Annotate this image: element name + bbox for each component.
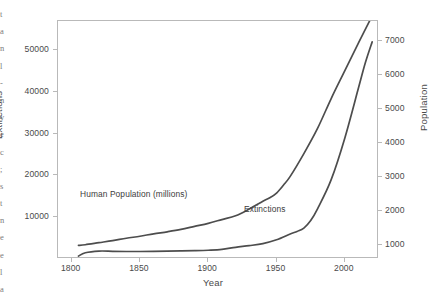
y-axis-left-tick-label: 10000 — [0, 211, 49, 221]
y-axis-left-tick-mark — [53, 174, 57, 175]
x-axis-tick-label: 1800 — [61, 263, 81, 273]
y-axis-right-tick-mark — [378, 210, 382, 211]
y-axis-right-tick-mark — [378, 40, 382, 41]
y-axis-left-tick-mark — [53, 91, 57, 92]
y-axis-right-tick-mark — [378, 108, 382, 109]
x-axis-tick-label: 1850 — [129, 263, 149, 273]
y-axis-right-tick-label: 4000 — [385, 137, 405, 147]
series-annotation-extinctions: Extinctions — [244, 204, 286, 214]
y-axis-right-tick-label: 7000 — [385, 35, 405, 45]
x-axis-tick-mark — [139, 258, 140, 262]
plot-area — [57, 20, 378, 258]
x-axis-tick-mark — [276, 258, 277, 262]
x-axis-tick-label: 1900 — [197, 263, 217, 273]
y-axis-left-tick-label: 30000 — [0, 128, 49, 138]
series-annotation-human-population: Human Population (millions) — [80, 189, 187, 199]
y-axis-right-tick-label: 5000 — [385, 103, 405, 113]
y-axis-right-tick-mark — [378, 176, 382, 177]
y-axis-right-tick-mark — [378, 74, 382, 75]
x-axis-tick-label: 2000 — [334, 263, 354, 273]
y-axis-right-tick-label: 6000 — [385, 69, 405, 79]
y-axis-left-tick-label: 20000 — [0, 169, 49, 179]
x-axis-tick-mark — [71, 258, 72, 262]
y-axis-right-tick-label: 1000 — [385, 239, 405, 249]
y-axis-right-title: Population — [418, 84, 429, 131]
plot-curves — [58, 21, 379, 259]
series-line-extinctions — [78, 42, 372, 256]
y-axis-right-tick-mark — [378, 244, 382, 245]
y-axis-left-tick-mark — [53, 49, 57, 50]
y-axis-right-tick-label: 2000 — [385, 205, 405, 215]
x-axis-tick-label: 1950 — [266, 263, 286, 273]
x-axis-title: Year — [0, 277, 426, 288]
series-line-human-population — [78, 21, 372, 245]
y-axis-right-tick-label: 3000 — [385, 171, 405, 181]
y-axis-left-tick-label: 50000 — [0, 44, 49, 54]
x-axis-tick-mark — [344, 258, 345, 262]
y-axis-left-tick-mark — [53, 133, 57, 134]
x-axis-tick-mark — [207, 258, 208, 262]
y-axis-left-tick-label: 40000 — [0, 86, 49, 96]
y-axis-right-tick-mark — [378, 142, 382, 143]
y-axis-left-tick-mark — [53, 216, 57, 217]
